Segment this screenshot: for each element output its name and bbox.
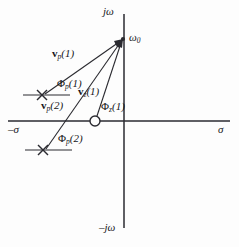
vector-argument: (2) [50,99,63,111]
real-axis-left-label: –σ [8,124,19,135]
vector-subscript: p [58,52,62,61]
phi-symbol: Φ [58,132,66,144]
pole-zero-diagram: jω –jω –σ σ ω0 vp(1) vp(2) vz(1) Φp(1) Φ… [0,0,239,247]
evaluation-point-label: ω0 [129,32,141,43]
omega-subscript: 0 [137,36,141,45]
arrowheads-group [114,39,123,48]
vector-symbol: v [52,47,58,59]
angle-zero-1-label: Φz(1) [101,101,125,112]
vector-pole-1-label: vp(1) [52,48,74,59]
zero-1-marker [90,116,100,126]
phi-subscript: z [109,105,112,114]
vector-argument: (1) [61,47,74,59]
imaginary-axis-top-label: jω [103,6,114,17]
phi-argument: (1) [69,77,82,89]
vector-subscript: z [84,90,87,99]
omega-symbol: ω [129,31,137,43]
phi-subscript: p [65,82,69,91]
vector-pole-2-label: vp(2) [41,100,63,111]
vector-subscript: p [47,104,51,113]
angle-pole-1-label: Φp(1) [57,78,82,89]
phi-symbol: Φ [101,100,109,112]
real-axis-right-label: σ [218,124,223,135]
vector-argument: (1) [86,85,99,97]
phi-symbol: Φ [57,77,65,89]
phi-argument: (2) [70,132,83,144]
imaginary-axis-bottom-label: –jω [99,222,115,233]
vector-symbol: v [41,99,47,111]
angle-pole-2-label: Φp(2) [58,133,83,144]
phi-subscript: p [66,137,70,146]
diagram-canvas [0,0,239,247]
phi-argument: (1) [112,100,125,112]
